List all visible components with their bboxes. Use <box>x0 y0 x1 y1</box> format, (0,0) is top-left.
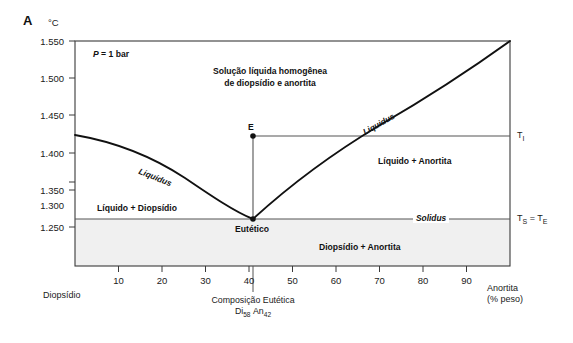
field-label-liquid-plus-diopside: Líquido + Diopsídio <box>97 203 177 214</box>
eutectic-field-label: Eutético <box>212 224 292 234</box>
temperature-label-ts-te: TS = TE <box>517 213 547 225</box>
solidus-label: Solidus <box>413 213 449 223</box>
field-label-liquid-solution: Solução líquida homogênea de diopsídio e… <box>180 66 360 89</box>
x-axis-left-endmember-label: Diopsídio <box>43 290 81 300</box>
y-tick-label-1250: 1.250 <box>24 222 64 233</box>
pressure-annotation: P = 1 bar <box>93 49 129 59</box>
y-tick-label-1400: 1.400 <box>24 148 64 159</box>
x-tick-label-70: 70 <box>365 275 395 286</box>
x-tick-label-50: 50 <box>278 275 308 286</box>
field-label-liquid-solution-line2: de diopsídio e anortita <box>224 78 316 88</box>
eutectic-composition-caption: Composição Eutética Di58 An42 <box>173 295 333 320</box>
y-tick-label-1550: 1.550 <box>24 36 64 47</box>
y-tick-label-1500: 1.500 <box>24 73 64 84</box>
t1-subscript: I <box>523 135 525 142</box>
e-point-marker <box>250 133 256 139</box>
x-tick-label-30: 30 <box>191 275 221 286</box>
e-point-label: E <box>248 122 254 132</box>
x-tick-label-10: 10 <box>104 275 134 286</box>
y-tick-label-1350: 1.350 <box>24 185 64 196</box>
field-label-liquid-plus-anorthite: Líquido + Anortita <box>378 156 451 167</box>
eutectic-caption-an-sub: 42 <box>264 311 271 318</box>
x-tick-label-60: 60 <box>321 275 351 286</box>
panel-label: A <box>23 13 32 28</box>
y-axis-ticks <box>69 41 75 227</box>
y-tick-label-1300: 1.300 <box>24 200 64 211</box>
y-axis-unit-label: °C <box>48 17 59 28</box>
x-axis-right-endmember-label: Anortita <box>487 283 518 293</box>
te-equals: = T <box>527 213 543 223</box>
field-label-diopside-plus-anorthite: Diopsídio + Anortita <box>319 242 401 253</box>
subsolidus-shaded-region <box>75 219 510 266</box>
eutectic-point-marker <box>250 216 256 222</box>
eutectic-caption-an: An <box>253 306 264 316</box>
phase-diagram-figure: A °C 1.550 1.500 1.450 1.400 1.350 1.300… <box>0 0 573 343</box>
te-subscript: E <box>543 218 548 225</box>
field-label-liquid-solution-line1: Solução líquida homogênea <box>213 66 327 76</box>
eutectic-caption-line1: Composição Eutética <box>211 295 294 305</box>
x-axis-ticks <box>119 266 467 272</box>
y-tick-label-1450: 1.450 <box>24 110 64 121</box>
x-tick-label-40: 40 <box>234 275 264 286</box>
x-tick-label-90: 90 <box>452 275 482 286</box>
pressure-value: = 1 bar <box>99 49 129 59</box>
x-tick-label-80: 80 <box>408 275 438 286</box>
eutectic-caption-di-sub: 58 <box>243 311 250 318</box>
temperature-label-t1: TI <box>517 130 524 142</box>
x-axis-right-units-label: (% peso) <box>487 294 523 304</box>
x-tick-label-20: 20 <box>147 275 177 286</box>
eutectic-caption-di: Di <box>235 306 243 316</box>
